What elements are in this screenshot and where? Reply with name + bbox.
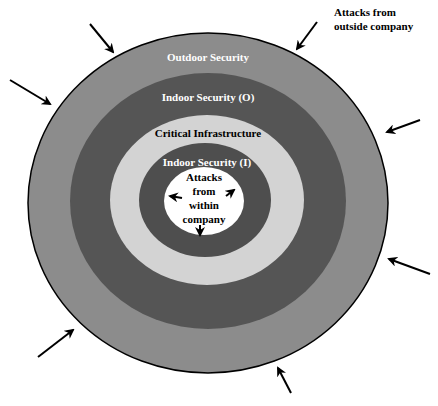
label-indoor-security-o: Indoor Security (O) [162,91,255,104]
core-line-2: from [192,185,215,197]
core-line-4: company [183,213,226,225]
security-diagram: Outdoor Security Indoor Security (O) Cri… [0,0,438,406]
core-line-3: within [189,199,219,211]
outside-label-line-2: outside company [334,20,414,32]
label-indoor-security-i: Indoor Security (I) [163,156,252,169]
label-critical-infrastructure: Critical Infrastructure [155,127,262,139]
label-outdoor-security: Outdoor Security [167,51,249,63]
core-line-1: Attacks [186,171,223,183]
outside-label-line-1: Attacks from [334,6,396,18]
